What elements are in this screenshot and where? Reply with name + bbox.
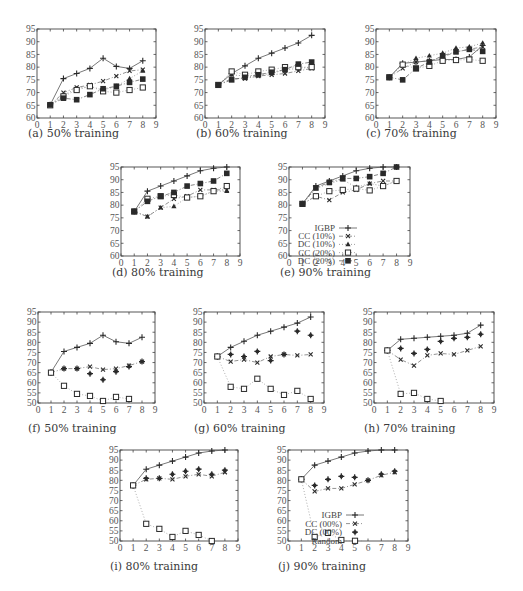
plot-g: 012345678950556065707580859095 xyxy=(193,307,327,415)
caption-g: (g) 60% training xyxy=(194,422,286,435)
y-tick-label: 80 xyxy=(193,338,203,348)
plot-c: 01234567896065707580859095 xyxy=(365,24,499,130)
legend: IGBPCC (10%)DC (10%)CC (20%)DC (20%) xyxy=(298,223,357,266)
x-tick-label: 2 xyxy=(144,543,149,553)
y-tick-label: 90 xyxy=(110,175,120,185)
y-tick-label: 50 xyxy=(363,398,373,408)
legend: IGBPCC (00%)DC (00%)Random xyxy=(305,510,364,546)
series-random xyxy=(131,483,215,544)
x-tick-label: 7 xyxy=(465,405,470,415)
y-tick-label: 90 xyxy=(109,455,119,465)
x-tick-label: 8 xyxy=(140,120,145,130)
legend-label: Random xyxy=(312,536,343,546)
x-tick-label: 7 xyxy=(209,543,214,553)
x-tick-label: 8 xyxy=(308,405,313,415)
y-tick-label: 65 xyxy=(26,101,36,111)
x-tick-label: 5 xyxy=(438,405,443,415)
y-tick-label: 80 xyxy=(194,62,204,72)
x-tick-label: 3 xyxy=(242,405,247,415)
x-tick-label: 6 xyxy=(366,543,371,553)
y-tick-label: 65 xyxy=(277,506,287,516)
x-tick-label: 6 xyxy=(282,405,287,415)
axes-frame xyxy=(121,167,240,256)
x-tick-label: 1 xyxy=(49,405,54,415)
y-tick-label: 85 xyxy=(277,466,287,476)
y-tick-label: 55 xyxy=(193,388,203,398)
axes-frame xyxy=(204,312,324,403)
y-tick-label: 85 xyxy=(278,188,288,198)
x-tick-label: 6 xyxy=(196,543,201,553)
x-tick-label: 9 xyxy=(408,258,413,268)
y-tick-label: 70 xyxy=(109,496,119,506)
x-tick-label: 7 xyxy=(379,543,384,553)
y-tick-label: 75 xyxy=(26,75,36,85)
y-tick-label: 75 xyxy=(277,486,287,496)
y-tick-label: 75 xyxy=(194,75,204,85)
plot-f: 012345678950556065707580859095 xyxy=(27,307,158,415)
y-tick-label: 75 xyxy=(27,348,37,358)
caption-c: (c) 70% training xyxy=(366,127,457,140)
caption-d: (d) 80% training xyxy=(112,266,204,279)
series-igbp xyxy=(214,314,313,359)
x-tick-label: 9 xyxy=(238,258,243,268)
x-tick-label: 9 xyxy=(494,120,499,130)
x-tick-label: 9 xyxy=(492,405,497,415)
caption-a: (a) 50% training xyxy=(28,127,119,140)
plot-h: 012345678950556065707580859095 xyxy=(363,307,497,415)
axes-frame xyxy=(38,312,155,403)
y-tick-label: 85 xyxy=(193,328,203,338)
x-tick-label: 7 xyxy=(127,120,132,130)
y-tick-label: 90 xyxy=(26,37,36,47)
x-tick-label: 3 xyxy=(75,405,80,415)
caption-i: (i) 80% training xyxy=(110,560,198,573)
y-tick-label: 85 xyxy=(365,50,375,60)
y-tick-label: 75 xyxy=(193,348,203,358)
y-tick-label: 85 xyxy=(363,328,373,338)
x-tick-label: 8 xyxy=(394,258,399,268)
x-tick-label: 5 xyxy=(101,405,106,415)
y-tick-label: 90 xyxy=(363,317,373,327)
y-tick-label: 80 xyxy=(365,62,375,72)
y-tick-label: 90 xyxy=(365,37,375,47)
y-tick-label: 65 xyxy=(363,368,373,378)
y-tick-label: 90 xyxy=(278,175,288,185)
y-tick-label: 80 xyxy=(278,200,288,210)
x-tick-label: 5 xyxy=(183,543,188,553)
x-tick-label: 9 xyxy=(323,120,328,130)
y-tick-label: 95 xyxy=(277,445,287,455)
x-tick-label: 3 xyxy=(412,405,417,415)
y-tick-label: 60 xyxy=(365,113,375,123)
y-tick-label: 85 xyxy=(27,328,37,338)
y-tick-label: 55 xyxy=(363,388,373,398)
x-tick-label: 6 xyxy=(114,405,119,415)
x-tick-label: 2 xyxy=(398,405,403,415)
caption-h: (h) 70% training xyxy=(364,422,456,435)
y-tick-label: 70 xyxy=(365,88,375,98)
x-tick-label: 8 xyxy=(478,405,483,415)
y-tick-label: 60 xyxy=(193,378,203,388)
y-tick-label: 80 xyxy=(110,200,120,210)
y-tick-label: 95 xyxy=(110,162,120,172)
y-tick-label: 70 xyxy=(26,88,36,98)
x-tick-label: 9 xyxy=(406,543,411,553)
x-tick-label: 9 xyxy=(153,405,158,415)
y-tick-label: 75 xyxy=(365,75,375,85)
x-tick-label: 8 xyxy=(309,120,314,130)
x-tick-label: 1 xyxy=(385,405,390,415)
y-tick-label: 65 xyxy=(27,368,37,378)
y-tick-label: 70 xyxy=(363,358,373,368)
axes-frame xyxy=(376,29,496,118)
x-tick-label: 8 xyxy=(392,543,397,553)
y-tick-label: 80 xyxy=(27,338,37,348)
axes-frame xyxy=(37,29,156,118)
caption-j: (j) 90% training xyxy=(278,560,366,573)
series-dc-00 xyxy=(384,331,483,356)
plot-i: 012345678950556065707580859095 xyxy=(109,445,241,553)
y-tick-label: 95 xyxy=(109,445,119,455)
y-tick-label: 70 xyxy=(277,496,287,506)
x-tick-label: 8 xyxy=(223,543,228,553)
x-tick-label: 2 xyxy=(228,405,233,415)
axes-frame xyxy=(120,450,238,541)
x-tick-label: 7 xyxy=(296,120,301,130)
caption-f: (f) 50% training xyxy=(28,422,117,435)
